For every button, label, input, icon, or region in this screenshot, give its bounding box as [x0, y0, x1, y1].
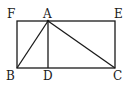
label-d: D [43, 69, 53, 83]
label-c: C [113, 69, 122, 83]
label-f: F [7, 7, 15, 21]
label-b: B [6, 69, 15, 83]
segment-ab [17, 21, 48, 68]
label-a: A [42, 7, 52, 21]
segment-ac [48, 21, 115, 68]
label-e: E [114, 7, 123, 21]
geometry-diagram: F A E B D C [0, 0, 131, 88]
rectangle-fecb [17, 21, 115, 68]
